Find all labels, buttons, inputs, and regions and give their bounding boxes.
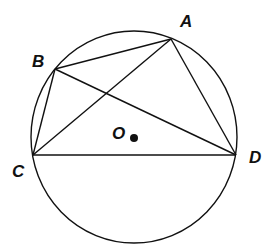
label-o: O <box>112 124 125 143</box>
center-dot <box>130 134 138 142</box>
segment-ad <box>171 39 236 155</box>
segment-bc <box>33 69 55 155</box>
label-a: A <box>179 12 192 31</box>
diagram-svg: A B C D O <box>0 0 277 252</box>
segment-bd <box>55 69 236 155</box>
geometry-diagram: A B C D O <box>0 0 277 252</box>
label-d: D <box>249 148 261 167</box>
label-c: C <box>12 162 25 181</box>
label-b: B <box>32 52 44 71</box>
